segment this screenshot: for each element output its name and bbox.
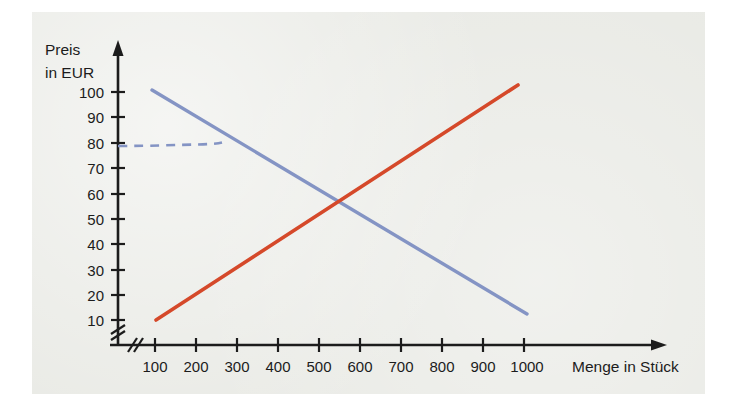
y-tick-label: 90 — [87, 109, 104, 126]
y-tick-label: 60 — [87, 186, 104, 203]
x-tick-label: 300 — [224, 358, 249, 375]
x-tick-label: 500 — [306, 358, 331, 375]
y-tick-label: 100 — [79, 84, 104, 101]
y-tick-label: 80 — [87, 135, 104, 152]
y-tick-label: 40 — [87, 236, 104, 253]
y-axis-tick-labels: 100 90 80 70 60 50 40 30 20 10 — [79, 84, 104, 329]
chart-canvas: 100 90 80 70 60 50 40 30 20 10 100 200 3… — [0, 0, 735, 412]
chart-figure: 100 90 80 70 60 50 40 30 20 10 100 200 3… — [0, 0, 735, 412]
x-tick-label: 100 — [142, 358, 167, 375]
y-axis — [113, 40, 124, 345]
x-axis-tick-labels: 100 200 300 400 500 600 700 800 900 1000 — [142, 358, 543, 375]
y-tick-label: 10 — [87, 312, 104, 329]
y-tick-label: 20 — [87, 287, 104, 304]
x-tick-label: 400 — [265, 358, 290, 375]
x-tick-label: 900 — [470, 358, 495, 375]
x-axis — [110, 340, 667, 351]
right-arrow-icon — [651, 340, 667, 351]
y-tick-label: 50 — [87, 211, 104, 228]
y-axis-title: Preis in EUR — [45, 41, 94, 81]
supply-curve-line — [156, 85, 518, 320]
up-arrow-icon — [113, 40, 124, 56]
x-tick-label: 800 — [429, 358, 454, 375]
x-tick-label: 600 — [347, 358, 372, 375]
y-axis-title-line1: Preis — [45, 41, 81, 58]
x-tick-label: 700 — [388, 358, 413, 375]
x-tick-label: 1000 — [510, 358, 543, 375]
x-axis-title: Menge in Stück — [572, 358, 679, 375]
y-tick-label: 70 — [87, 160, 104, 177]
demand-curve-dashed-segment — [118, 143, 222, 147]
x-tick-label: 200 — [183, 358, 208, 375]
y-axis-title-line2: in EUR — [45, 64, 94, 81]
y-tick-label: 30 — [87, 262, 104, 279]
